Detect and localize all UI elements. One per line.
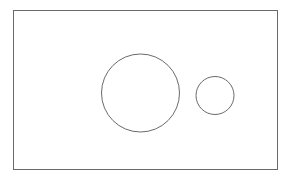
small-circle <box>196 77 234 115</box>
frame-rectangle <box>14 11 278 170</box>
diagram-canvas <box>0 0 292 175</box>
large-circle <box>102 54 180 132</box>
